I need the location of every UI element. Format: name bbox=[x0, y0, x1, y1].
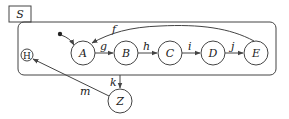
superstate-label-tab: S bbox=[9, 6, 31, 22]
superstate-label: S bbox=[16, 8, 24, 21]
edge-m bbox=[33, 59, 109, 96]
state-a: A bbox=[71, 41, 95, 65]
edge-i-label: i bbox=[188, 40, 192, 53]
state-z-label: Z bbox=[115, 95, 124, 108]
edge-m-label: m bbox=[80, 85, 90, 98]
state-d: D bbox=[201, 41, 225, 65]
state-e-label: E bbox=[251, 47, 260, 60]
history-state-h: H bbox=[21, 49, 33, 61]
edge-initial-a bbox=[61, 35, 74, 45]
edge-f-label: f bbox=[111, 23, 118, 36]
state-z: Z bbox=[108, 89, 132, 113]
edge-g-label: g bbox=[100, 40, 107, 53]
state-c-label: C bbox=[166, 47, 175, 60]
state-a-label: A bbox=[78, 47, 87, 60]
state-d-label: D bbox=[208, 47, 218, 60]
state-e: E bbox=[244, 41, 268, 65]
state-b: B bbox=[114, 41, 138, 65]
history-state-label: H bbox=[23, 51, 31, 61]
statechart-diagram: S f g h i j A B C D E H k bbox=[0, 0, 289, 119]
edge-h-label: h bbox=[143, 40, 150, 53]
edge-f bbox=[92, 26, 254, 43]
state-c: C bbox=[158, 41, 182, 65]
edge-j-label: j bbox=[228, 40, 235, 53]
state-b-label: B bbox=[121, 47, 130, 60]
edge-k-label: k bbox=[110, 76, 117, 89]
